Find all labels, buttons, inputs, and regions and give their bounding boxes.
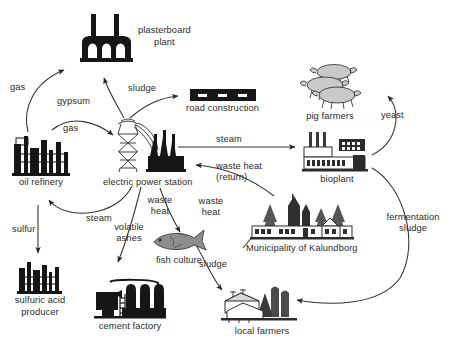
edge-label-waste-heat-municipality: waste heat	[191, 196, 231, 217]
cement-factory-label: cement factory	[99, 321, 161, 332]
edge-label-volatile-ashes-line2: ashes	[116, 233, 141, 243]
node-electric-power-station-label: electric power station	[103, 176, 193, 188]
municipality-label: Municipality of Kalundborg	[246, 243, 358, 254]
edge-label-steam-bioplant: steam	[216, 134, 242, 145]
edge-label-waste-heat-return: waste heat (return)	[216, 161, 274, 182]
cement-silos-icon	[92, 278, 168, 320]
fish-culture-label: fish culture	[156, 255, 202, 266]
bioplant-building-icon	[298, 131, 376, 173]
edge-label-sludge-road: sludge	[128, 83, 156, 94]
factory-two-chimneys-icon	[76, 12, 138, 62]
road-construction-label: road construction	[186, 103, 259, 114]
sulfuric-acid-label-line1: sulfuric acid	[15, 295, 65, 306]
edge-label-fermentation-sludge-line1: fermentation	[387, 212, 440, 222]
edge-label-fermentation-sludge-line2: sludge	[399, 223, 427, 233]
refinery-towers-icon	[8, 130, 74, 176]
edge-label-waste-heat-muni-line1: waste	[199, 196, 224, 206]
node-road-construction: road construction	[186, 88, 259, 114]
town-church-trees-icon	[248, 194, 356, 242]
edge-label-waste-heat-fish: waste heat	[140, 195, 180, 216]
node-sulfuric-acid-producer: sulfuric acid producer	[14, 258, 66, 317]
node-bioplant: bioplant	[298, 131, 376, 185]
node-plasterboard-plant-label: plasterboard plant	[138, 24, 191, 47]
edge-label-waste-heat-muni-line2: heat	[202, 207, 221, 217]
plasterboard-plant-label-line1: plasterboard	[138, 25, 191, 36]
sulfuric-acid-label-line2: producer	[21, 307, 59, 318]
node-fish-culture: fish culture	[148, 228, 210, 266]
bioplant-label: bioplant	[320, 174, 353, 185]
edge-label-gypsum: gypsum	[57, 96, 90, 107]
acid-plant-icon	[14, 258, 66, 294]
edge-label-volatile-ashes: volatile ashes	[106, 222, 152, 243]
edge-label-volatile-ashes-line1: volatile	[114, 222, 144, 232]
edge-label-waste-heat-fish-line1: waste	[148, 195, 173, 205]
pylon-power-plant-icon	[104, 112, 188, 174]
farm-barn-silo-icon	[219, 283, 305, 325]
edge-steam-refinery	[49, 186, 132, 213]
node-plasterboard-plant	[76, 12, 138, 62]
node-oil-refinery: oil refinery	[8, 130, 74, 188]
fish-icon	[148, 228, 210, 254]
edge-label-gas-plasterboard: gas	[10, 82, 25, 93]
node-pig-farmers: pig farmers	[292, 62, 368, 122]
edge-label-waste-heat-return-line2: (return)	[216, 172, 247, 182]
plasterboard-plant-label-line2: plant	[154, 37, 175, 48]
edge-label-sulfur: sulfur	[12, 224, 35, 235]
industrial-symbiosis-diagram: gas gypsum sludge gas steam waste heat (…	[0, 0, 457, 343]
edge-label-waste-heat-fish-line2: heat	[151, 206, 170, 216]
node-local-farmers: local farmers	[219, 283, 305, 337]
oil-refinery-label: oil refinery	[19, 177, 63, 188]
node-municipality: Municipality of Kalundborg	[246, 194, 358, 254]
pigs-icon	[292, 62, 368, 110]
pig-farmers-label: pig farmers	[306, 111, 354, 122]
node-electric-power-station	[104, 112, 188, 174]
local-farmers-label: local farmers	[235, 326, 290, 337]
edge-label-fermentation-sludge: fermentation sludge	[378, 212, 448, 233]
electric-power-station-label: electric power station	[103, 177, 193, 188]
road-bar-icon	[190, 88, 256, 102]
edge-label-waste-heat-return-line1: waste heat	[216, 161, 262, 171]
edge-label-yeast: yeast	[381, 110, 404, 121]
node-cement-factory: cement factory	[92, 278, 168, 332]
